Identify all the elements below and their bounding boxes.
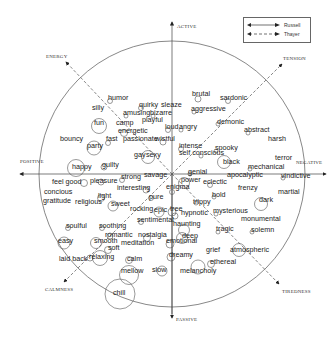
mood-tag: concious (44, 188, 72, 195)
mood-tag: sexy (146, 151, 161, 158)
mood-tag: fun (94, 119, 104, 126)
mood-tag: atmospheric (230, 246, 269, 253)
mood-tag: martial (278, 188, 300, 195)
mood-tag: brutal (192, 90, 210, 97)
mood-tag: melancholy (180, 267, 216, 274)
mood-tag: angry (179, 123, 197, 130)
mood-tag: frenzy (238, 184, 258, 191)
mood-tag: ethereal (210, 258, 236, 265)
mood-tag: loud (165, 123, 179, 130)
mood-tag: fast (106, 135, 118, 142)
mood-tag: eclectic (203, 178, 227, 185)
mood-tag: emotional (166, 237, 197, 244)
mood-tag: terror (275, 154, 292, 161)
mood-tag: calm (127, 255, 142, 262)
label-negative: NEGATIVE (296, 160, 322, 165)
mood-tag: chill (113, 289, 125, 296)
mood-tag: playful (142, 116, 163, 123)
mood-tag: rocking (130, 205, 153, 212)
mood-tag: party (87, 142, 103, 149)
mood-tag: dark (259, 196, 273, 203)
mood-tag: pure (149, 193, 163, 200)
mood-tag: sardonic (220, 94, 247, 101)
mood-tag: wistful (155, 135, 175, 142)
mood-tag: bouncy (60, 135, 83, 142)
mood-tag: haunting (173, 220, 201, 227)
label-calmness: CALMNESS (45, 287, 73, 292)
legend-russell: Russell (284, 22, 300, 28)
mood-tag: grief (206, 246, 220, 253)
mood-tag: apocalyptic (227, 171, 263, 178)
label-passive: PASSIVE (176, 317, 197, 322)
mood-tag: easy (58, 237, 73, 244)
label-positive: POSITIVE (20, 159, 44, 164)
mood-tag: humor (108, 94, 128, 101)
mood-tag: dreamy (169, 251, 193, 258)
label-active: ACTIVE (177, 24, 197, 29)
mood-tag: harsh (268, 135, 286, 142)
mood-tag: black (223, 158, 240, 165)
mood-tag: silly (92, 104, 104, 111)
mood-tag: gay (134, 151, 146, 158)
mood-tag: aggressive (191, 105, 226, 112)
mood-tag: meditation (121, 239, 154, 246)
mood-tag: sentimental (137, 216, 174, 223)
mood-tag: solemn (251, 226, 274, 233)
mood-tag: feel good (52, 178, 82, 185)
mood-tag: happy (72, 163, 92, 170)
mood-tag: interesting (117, 184, 150, 191)
mood-tag: abstract (244, 126, 270, 133)
legend-thayer: Thayer (284, 31, 300, 37)
mood-tag: tragic (216, 225, 234, 232)
mood-tag: slow (152, 266, 166, 273)
legend: Russell Thayer (243, 17, 311, 43)
mood-tag: sweet (111, 200, 130, 207)
mood-tag: relaxing (89, 253, 114, 260)
mood-tag: demonic (217, 118, 244, 125)
mood-tag: strong (121, 173, 141, 180)
mood-tag: bold (212, 191, 226, 198)
mood-tag: religious (75, 198, 102, 205)
label-tension: TENSION (283, 56, 306, 61)
mood-tag: soulful (66, 222, 87, 229)
mood-tag: soothing (99, 222, 126, 229)
mood-tag: mellow (121, 267, 143, 274)
label-energy: ENERGY (46, 54, 67, 59)
mood-tag: guilty (102, 161, 119, 168)
mood-tag: soft (108, 244, 120, 251)
mood-tag: pleasure (90, 177, 118, 184)
mood-tag: gratitude (43, 197, 71, 204)
mood-tag: savage (144, 171, 167, 178)
mood-tag: hypnotic (181, 209, 208, 216)
mood-space-diagram: ACTIVE PASSIVE POSITIVE NEGATIVE ENERGY … (0, 0, 336, 342)
mood-tag: trippy (193, 198, 211, 205)
mood-tag: enigma (166, 183, 190, 190)
mood-tag: monumental (241, 215, 281, 222)
label-tiredness: TIREDNESS (282, 289, 311, 294)
mood-tag: passionate (123, 135, 158, 142)
mood-tag: self conscious (179, 149, 224, 156)
mood-tag: vindictive (281, 172, 311, 179)
mood-tag: laid back (59, 255, 87, 262)
mood-tag: epic (154, 206, 167, 213)
